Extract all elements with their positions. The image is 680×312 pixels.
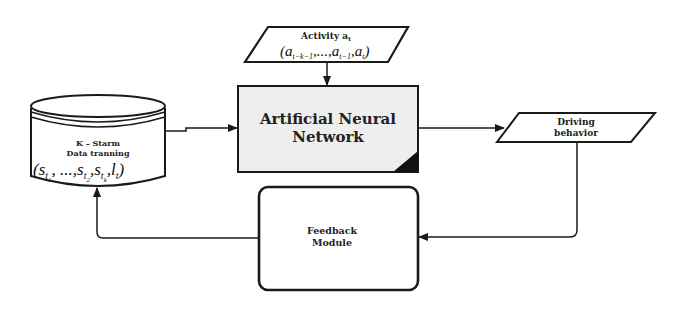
edge-datastore-to-ann: [165, 128, 237, 131]
data-store-cylinder: K – Starm Data tranning (st1, ...,st2,st…: [31, 95, 165, 186]
edge-driving-to-feedback: [419, 142, 577, 237]
data-store-title-2: Data tranning: [67, 148, 130, 158]
ann-title-1: Artificial Neural: [259, 110, 396, 128]
cylinder-top: [31, 95, 165, 117]
activity-input-node: Activity at (at−k−1,...,at−1,at): [245, 27, 408, 62]
feedback-module-node: Feedback Module: [259, 187, 418, 290]
edge-feedback-to-datastore: [97, 188, 259, 238]
ann-node: Artificial Neural Network: [238, 86, 418, 172]
ann-title-2: Network: [292, 128, 364, 146]
data-store-title-1: K – Starm: [76, 138, 120, 148]
driving-behavior-node: Driving behavior: [497, 113, 655, 142]
feedback-title-2: Module: [312, 237, 352, 248]
flow-diagram: K – Starm Data tranning (st1, ...,st2,st…: [0, 0, 680, 312]
feedback-title-1: Feedback: [307, 225, 358, 236]
activity-title: Activity at: [300, 31, 351, 42]
driving-title-1: Driving: [557, 117, 595, 127]
driving-title-2: behavior: [554, 128, 598, 138]
